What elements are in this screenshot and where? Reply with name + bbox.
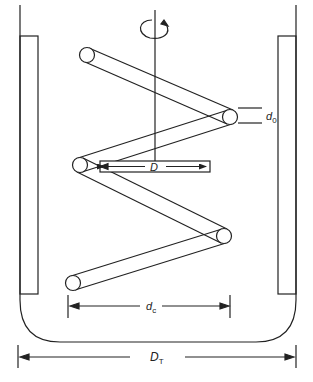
label-dc: dc [146,300,156,315]
helical-coil-tank-diagram: d0 D dc DT [0,0,313,382]
tank-wall [20,5,296,342]
right-baffle [278,36,296,294]
label-d0: d0 [266,110,277,125]
label-D: D [150,161,158,173]
label-DT: DT [150,350,164,366]
left-baffle [20,36,38,294]
